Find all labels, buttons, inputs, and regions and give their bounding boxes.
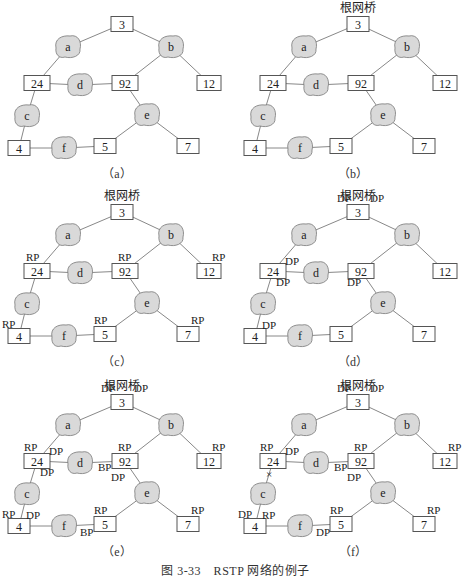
port-role-dp: DP bbox=[276, 276, 290, 288]
panel-label: （d） bbox=[338, 355, 368, 369]
bridge-24: 24 bbox=[260, 454, 286, 469]
segment-a: a bbox=[56, 224, 81, 246]
segment-d: d bbox=[68, 452, 93, 474]
segment-b: b bbox=[159, 414, 184, 436]
svg-text:d: d bbox=[313, 456, 319, 470]
segment-c: c bbox=[251, 105, 276, 127]
port-role-bp: BP bbox=[334, 461, 347, 473]
panel-label: （e） bbox=[102, 545, 131, 559]
port-role-rp: RP bbox=[212, 251, 225, 263]
segment-b: b bbox=[159, 36, 184, 58]
svg-text:5: 5 bbox=[338, 518, 344, 532]
svg-text:f: f bbox=[298, 519, 302, 533]
port-role-rp: RP bbox=[24, 441, 37, 453]
bridge-12: 12 bbox=[433, 264, 457, 279]
panel-label: （b） bbox=[338, 167, 368, 181]
svg-text:7: 7 bbox=[421, 518, 427, 532]
segment-e: e bbox=[135, 482, 160, 504]
port-role-rp: RP bbox=[212, 441, 225, 453]
svg-text:f: f bbox=[62, 141, 66, 155]
bridge-12: 12 bbox=[433, 454, 457, 469]
svg-text:3: 3 bbox=[119, 206, 125, 220]
port-role-dp: DP bbox=[262, 319, 276, 331]
segment-b: b bbox=[159, 224, 184, 246]
port-role-bp: BP bbox=[98, 461, 111, 473]
bridge-3: 3 bbox=[111, 17, 133, 32]
svg-text:7: 7 bbox=[185, 518, 191, 532]
segment-d: d bbox=[68, 262, 93, 284]
svg-text:b: b bbox=[404, 40, 410, 54]
segment-f: f bbox=[52, 515, 77, 537]
root-bridge-label: 根网桥 bbox=[104, 189, 140, 203]
bridge-12: 12 bbox=[433, 76, 457, 91]
port-role-rp: RP bbox=[191, 504, 204, 516]
port-role-rp: RP bbox=[94, 314, 107, 326]
svg-text:92: 92 bbox=[119, 77, 131, 91]
bridge-7: 7 bbox=[177, 139, 199, 154]
segment-f: f bbox=[52, 137, 77, 159]
root-bridge-label: 根网桥 bbox=[340, 1, 376, 15]
svg-text:d: d bbox=[77, 78, 83, 92]
segment-a: a bbox=[292, 224, 317, 246]
segment-a: a bbox=[56, 36, 81, 58]
svg-text:c: c bbox=[24, 297, 29, 311]
segment-d: d bbox=[68, 74, 93, 96]
bridge-7: 7 bbox=[177, 517, 199, 532]
svg-text:12: 12 bbox=[439, 455, 451, 469]
svg-text:5: 5 bbox=[102, 328, 108, 342]
svg-text:b: b bbox=[168, 228, 174, 242]
port-role-rp: RP bbox=[427, 504, 440, 516]
svg-text:a: a bbox=[301, 40, 307, 54]
bridge-92: 92 bbox=[112, 264, 138, 279]
port-role-dp: DP bbox=[40, 466, 54, 478]
svg-text:5: 5 bbox=[338, 140, 344, 154]
port-role-bp: BP bbox=[80, 526, 93, 538]
port-role-rp: RP bbox=[118, 251, 131, 263]
segment-f: f bbox=[288, 137, 313, 159]
svg-text:c: c bbox=[260, 487, 265, 501]
bridge-7: 7 bbox=[413, 327, 435, 342]
bridge-3: 3 bbox=[111, 395, 133, 410]
svg-text:d: d bbox=[313, 266, 319, 280]
svg-text:12: 12 bbox=[439, 265, 451, 279]
svg-text:d: d bbox=[77, 266, 83, 280]
svg-text:c: c bbox=[24, 109, 29, 123]
bridge-92: 92 bbox=[112, 76, 138, 91]
panel-label: （c） bbox=[102, 355, 131, 369]
bridge-12: 12 bbox=[197, 76, 221, 91]
svg-text:24: 24 bbox=[31, 265, 43, 279]
bridge-24: 24 bbox=[24, 264, 50, 279]
svg-text:f: f bbox=[298, 329, 302, 343]
segment-e: e bbox=[135, 292, 160, 314]
svg-text:7: 7 bbox=[421, 140, 427, 154]
bridge-24: 24 bbox=[24, 76, 50, 91]
svg-text:e: e bbox=[380, 296, 385, 310]
bridge-7: 7 bbox=[177, 327, 199, 342]
bridge-3: 3 bbox=[347, 205, 369, 220]
segment-c: c bbox=[251, 293, 276, 315]
port-role-blocked-mark: × bbox=[266, 468, 272, 480]
svg-text:3: 3 bbox=[119, 18, 125, 32]
svg-text:12: 12 bbox=[203, 265, 215, 279]
svg-text:d: d bbox=[313, 78, 319, 92]
svg-text:c: c bbox=[260, 109, 265, 123]
port-role-dp: DP bbox=[337, 192, 351, 204]
svg-text:a: a bbox=[65, 40, 71, 54]
svg-text:24: 24 bbox=[267, 455, 279, 469]
port-role-dp: DP bbox=[134, 382, 148, 394]
port-role-rp: RP bbox=[448, 441, 461, 453]
svg-text:7: 7 bbox=[185, 140, 191, 154]
bridge-4: 4 bbox=[244, 141, 266, 156]
svg-text:5: 5 bbox=[338, 328, 344, 342]
svg-text:4: 4 bbox=[16, 142, 22, 156]
svg-text:a: a bbox=[65, 228, 71, 242]
bridge-5: 5 bbox=[330, 139, 352, 154]
svg-text:4: 4 bbox=[252, 520, 258, 534]
segment-c: c bbox=[15, 105, 40, 127]
svg-text:92: 92 bbox=[355, 455, 367, 469]
bridge-12: 12 bbox=[197, 454, 221, 469]
svg-text:12: 12 bbox=[203, 455, 215, 469]
bridge-12: 12 bbox=[197, 264, 221, 279]
bridge-3: 3 bbox=[347, 395, 369, 410]
